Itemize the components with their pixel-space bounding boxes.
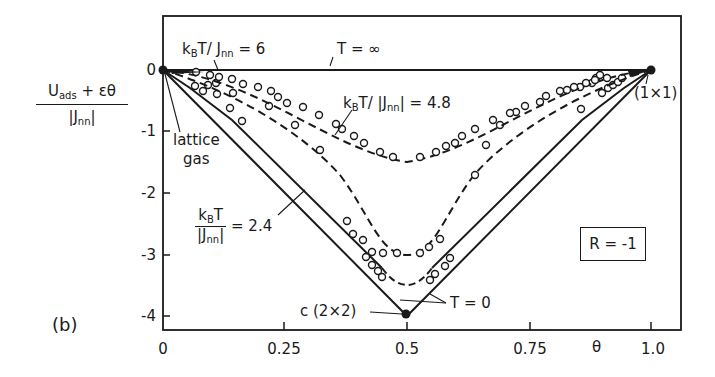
y-tick-0: 0 <box>126 63 156 78</box>
x-ticks <box>284 322 651 330</box>
plot-frame <box>163 16 681 330</box>
label-t-4-8: kBT/ |Jnn| = 4.8 <box>343 96 451 113</box>
x-tick-0-5: 0.5 <box>395 342 419 357</box>
x-axis-label: θ <box>592 340 601 355</box>
panel-label: (b) <box>52 316 77 334</box>
r-parameter-box: R = -1 <box>580 227 646 261</box>
label-lattice-gas-line1: lattice <box>173 133 220 148</box>
point-lattice-gas <box>159 66 168 75</box>
y-axis-label: Uads + εθ |Jnn| <box>36 82 128 127</box>
x-tick-0-75: 0.75 <box>513 342 546 357</box>
y-axis-label-denominator: |Jnn| <box>36 105 128 127</box>
x-tick-0: 0 <box>158 342 168 357</box>
label-lattice-gas-line2: gas <box>183 152 210 167</box>
x-tick-0-25: 0.25 <box>267 342 300 357</box>
y-tick-minus-4: -4 <box>126 309 156 324</box>
y-ticks <box>163 70 170 316</box>
point-1x1 <box>647 66 656 75</box>
y-tick-minus-2: -2 <box>126 186 156 201</box>
y-tick-minus-1: -1 <box>126 124 156 139</box>
point-c2x2 <box>402 310 411 319</box>
label-c2x2: c (2×2) <box>300 304 356 319</box>
label-t-6: kBT/ Jnn = 6 <box>182 42 265 59</box>
series-t-6 <box>163 69 651 163</box>
label-1x1: (1×1) <box>634 86 677 101</box>
y-axis-label-numerator: Uads + εθ <box>36 82 128 105</box>
y-tick-minus-3: -3 <box>126 248 156 263</box>
label-t-zero: T = 0 <box>450 296 491 311</box>
label-t-infinity: T = ∞ <box>337 42 381 57</box>
label-t-2-4: kBT|Jnn| = 2.4 <box>195 208 272 245</box>
x-tick-1-0: 1.0 <box>641 342 665 357</box>
